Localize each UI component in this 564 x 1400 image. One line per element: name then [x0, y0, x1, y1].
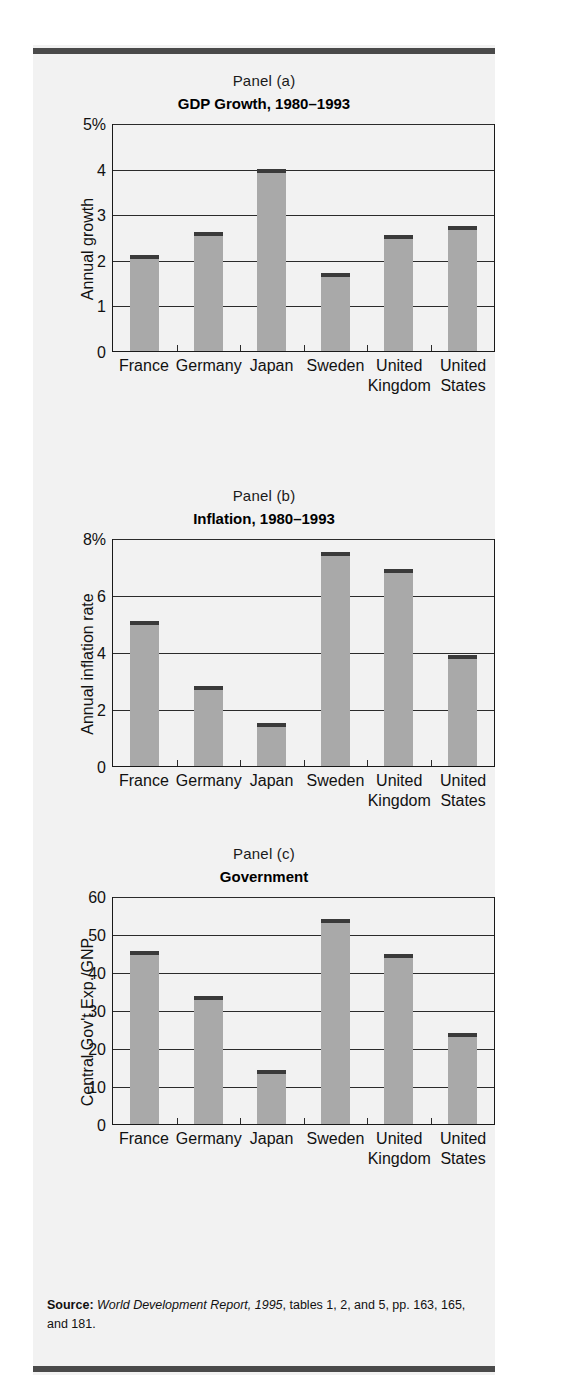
- y-tick-label: 20: [88, 1041, 106, 1059]
- x-tick-label-line: States: [431, 791, 495, 811]
- gridline: [113, 710, 494, 711]
- bar-cap: [194, 686, 223, 690]
- chart-panel-b: Panel (b) Inflation, 1980–1993 Annual in…: [33, 487, 495, 789]
- bar: [130, 621, 159, 766]
- bar-cap: [194, 232, 223, 236]
- source-label: Source:: [47, 1298, 94, 1312]
- gridline: [113, 1087, 494, 1088]
- x-tick-label-line: United: [431, 771, 495, 791]
- x-tick: [431, 1118, 432, 1124]
- bar: [321, 273, 350, 351]
- x-tick-label-line: Kingdom: [367, 791, 431, 811]
- gridline: [113, 596, 494, 597]
- y-tick-label: 6: [97, 588, 106, 606]
- bar-cap: [257, 723, 286, 727]
- source-publication: World Development Report, 1995: [97, 1298, 283, 1312]
- x-tick-label: Germany: [176, 356, 240, 376]
- x-tick-label: France: [112, 1129, 176, 1149]
- bar-cap: [321, 552, 350, 556]
- bar-cap: [384, 235, 413, 239]
- panel-a-plot-area: Annual growth 012345% FranceGermanyJapan…: [33, 124, 495, 374]
- panel-c-title: Government: [33, 863, 495, 887]
- panel-a-plot-frame: 012345%: [112, 124, 495, 352]
- bar-cap: [130, 255, 159, 259]
- x-tick-label-line: Germany: [176, 1129, 240, 1149]
- y-tick-label: 3: [97, 207, 106, 225]
- panel-b-title: Inflation, 1980–1993: [33, 505, 495, 529]
- x-tick-label-line: Sweden: [304, 356, 368, 376]
- bar: [257, 1070, 286, 1124]
- gridline: [113, 215, 494, 216]
- panel-c-plot-frame: 0102030405060: [112, 897, 495, 1125]
- bar: [194, 686, 223, 766]
- x-tick-label: UnitedKingdom: [367, 771, 431, 811]
- x-tick: [177, 760, 178, 766]
- x-tick-label-line: United: [367, 771, 431, 791]
- x-tick-label-line: France: [112, 1129, 176, 1149]
- bar: [321, 919, 350, 1124]
- gridline: [113, 539, 494, 540]
- x-tick: [431, 345, 432, 351]
- y-tick-label: 0: [97, 759, 106, 777]
- x-tick-label-line: United: [367, 356, 431, 376]
- x-tick-label-line: Kingdom: [367, 1149, 431, 1169]
- x-tick-label-line: Japan: [240, 1129, 304, 1149]
- x-tick: [240, 760, 241, 766]
- bar: [384, 235, 413, 351]
- panel-b-x-axis-labels: FranceGermanyJapanSwedenUnitedKingdomUni…: [112, 771, 495, 817]
- bar: [384, 954, 413, 1124]
- source-note: Source: World Development Report, 1995, …: [47, 1296, 487, 1334]
- bar-cap: [130, 951, 159, 955]
- bar-cap: [257, 1070, 286, 1074]
- x-tick-label: UnitedKingdom: [367, 1129, 431, 1169]
- x-tick: [367, 760, 368, 766]
- y-tick-label: 10: [88, 1079, 106, 1097]
- bar: [130, 951, 159, 1124]
- x-tick-label-line: United: [367, 1129, 431, 1149]
- x-tick-label-line: States: [431, 1149, 495, 1169]
- gridline: [113, 170, 494, 171]
- bar-cap: [448, 1033, 477, 1037]
- bar-cap: [321, 919, 350, 923]
- bar: [130, 255, 159, 351]
- bar: [321, 552, 350, 766]
- gridline: [113, 124, 494, 125]
- y-tick-label: 30: [88, 1003, 106, 1021]
- x-tick-label: Sweden: [304, 356, 368, 376]
- bar-cap: [321, 273, 350, 277]
- y-tick-label: 4: [97, 645, 106, 663]
- x-tick-label: UnitedStates: [431, 356, 495, 396]
- x-tick-label-line: Japan: [240, 356, 304, 376]
- panel-b-plot-area: Annual inflation rate 02468% FranceGerma…: [33, 539, 495, 789]
- bar: [257, 723, 286, 766]
- x-tick: [367, 345, 368, 351]
- gridline: [113, 261, 494, 262]
- bar: [448, 226, 477, 351]
- x-tick-label: Germany: [176, 1129, 240, 1149]
- y-tick-label: 8%: [83, 531, 106, 549]
- x-tick-label: Japan: [240, 356, 304, 376]
- top-rule: [33, 48, 495, 54]
- panel-b-plot-frame: 02468%: [112, 539, 495, 767]
- x-tick-label: UnitedKingdom: [367, 356, 431, 396]
- gridline: [113, 935, 494, 936]
- x-tick-label-line: Germany: [176, 356, 240, 376]
- x-tick-label-line: States: [431, 376, 495, 396]
- panel-c-plot-area: Central Gov't Exp./GNP 0102030405060 Fra…: [33, 897, 495, 1147]
- x-tick-label: Germany: [176, 771, 240, 791]
- y-tick-label: 50: [88, 927, 106, 945]
- x-tick: [240, 1118, 241, 1124]
- bottom-rule: [33, 1366, 495, 1372]
- figure-root: Panel (a) GDP Growth, 1980–1993 Annual g…: [0, 0, 564, 1400]
- x-tick-label: France: [112, 771, 176, 791]
- x-tick: [177, 345, 178, 351]
- bar: [384, 569, 413, 766]
- y-tick-label: 4: [97, 162, 106, 180]
- panel-a-kicker: Panel (a): [33, 72, 495, 90]
- x-tick-label: France: [112, 356, 176, 376]
- bar-cap: [257, 169, 286, 173]
- x-tick-label-line: Sweden: [304, 771, 368, 791]
- x-tick: [304, 1118, 305, 1124]
- y-tick-label: 0: [97, 1117, 106, 1135]
- x-tick: [304, 760, 305, 766]
